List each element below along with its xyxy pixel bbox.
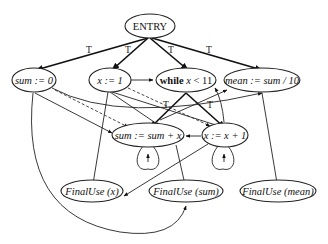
edge-label-t: T: [207, 100, 213, 110]
edge-x-init-final-x: [92, 92, 108, 190]
edge-label-t: T: [168, 45, 174, 55]
node-sum-update-label: sum := sum + x: [115, 130, 182, 141]
node-final-mean: FinalUse (mean): [240, 180, 316, 202]
data-edges: [32, 80, 278, 234]
loop-x-update: [212, 146, 234, 169]
node-final-x-label: FinalUse (x): [64, 186, 119, 198]
node-sum-update: sum := sum + x: [112, 123, 184, 147]
node-entry: ENTRY: [125, 14, 175, 38]
edge-mean-final-mean: [262, 93, 278, 189]
edge-sum-init-final-sum: [32, 93, 186, 234]
node-x-update-label: x := x + 1: [203, 130, 247, 141]
edge-label-t: T: [86, 45, 92, 55]
node-mean: mean := sum / 10: [224, 68, 300, 92]
node-entry-label: ENTRY: [133, 21, 168, 32]
node-final-mean-label: FinalUse (mean): [241, 186, 314, 198]
node-final-x: FinalUse (x): [61, 180, 123, 202]
while-condition: < 11: [191, 75, 212, 86]
edge-sum-update-mean: [160, 90, 227, 120]
node-final-sum-label: FinalUse (sum): [152, 186, 219, 198]
node-final-sum: FinalUse (sum): [149, 180, 223, 202]
dependence-graph: T T T T T T ENTRY sum := 0: [0, 0, 328, 244]
node-x-update: x := x + 1: [202, 123, 248, 147]
node-x-init-label: x := 1: [96, 75, 123, 86]
node-sum-init-label: sum := 0: [15, 75, 54, 86]
while-keyword: while: [160, 75, 187, 86]
edge-label-t: T: [125, 45, 131, 55]
node-x-init: x := 1: [89, 68, 131, 92]
edge-sum-init-sum-update-dashed: [55, 90, 128, 127]
edge-x-init-sum-update: [110, 92, 160, 126]
node-mean-label: mean := sum / 10: [225, 75, 300, 86]
node-sum-init: sum := 0: [12, 68, 56, 92]
node-while: while x < 11: [156, 68, 216, 92]
node-while-label: while x < 11: [160, 75, 213, 86]
edge-label-t: T: [206, 45, 212, 55]
